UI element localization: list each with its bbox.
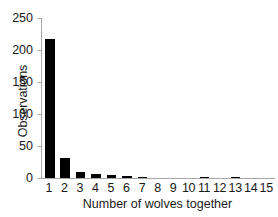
bar-cell [73, 18, 88, 178]
x-axis-tick-labels: 123456789101112131415 [41, 180, 274, 196]
plot-area [41, 18, 274, 178]
bar [45, 39, 55, 178]
x-tick-label: 10 [181, 180, 197, 196]
y-tick-mark [38, 114, 42, 115]
y-tick-label: 0 [26, 172, 33, 185]
bar [60, 158, 70, 178]
bar-cell [135, 18, 150, 178]
y-tick-label: 250 [12, 12, 33, 25]
x-tick-label: 8 [150, 180, 166, 196]
bar-cell [212, 18, 227, 178]
bar-cell [181, 18, 196, 178]
x-tick-label: 5 [103, 180, 119, 196]
x-tick-label: 9 [165, 180, 181, 196]
x-axis-title: Number of wolves together [41, 197, 274, 211]
x-tick-label: 15 [258, 180, 274, 196]
chart-figure: Observations 050100150200250 12345678910… [0, 0, 278, 217]
y-tick-label: 200 [12, 44, 33, 57]
x-tick-label: 11 [196, 180, 212, 196]
bar-cell [104, 18, 119, 178]
y-tick-mark [38, 50, 42, 51]
x-tick-label: 7 [134, 180, 150, 196]
x-tick-label: 14 [243, 180, 259, 196]
x-tick-label: 6 [119, 180, 135, 196]
x-tick-label: 3 [72, 180, 88, 196]
y-tick-label: 50 [19, 140, 33, 153]
x-tick-label: 4 [88, 180, 104, 196]
y-tick-mark [38, 146, 42, 147]
bar-cell [42, 18, 57, 178]
x-tick-label: 1 [41, 180, 57, 196]
bar-cell [243, 18, 258, 178]
y-tick-mark [38, 82, 42, 83]
y-axis-tick-labels: 050100150200250 [0, 0, 36, 217]
bar-cell [259, 18, 274, 178]
x-tick-label: 2 [57, 180, 73, 196]
y-tick-label: 100 [12, 108, 33, 121]
bar-cell [197, 18, 212, 178]
y-tick-label: 150 [12, 76, 33, 89]
y-tick-mark [38, 18, 42, 19]
bar-series [42, 18, 274, 178]
bar-cell [150, 18, 165, 178]
bar-cell [57, 18, 72, 178]
x-tick-label: 12 [212, 180, 228, 196]
x-axis-line [41, 178, 275, 179]
bar-cell [119, 18, 134, 178]
bar-cell [166, 18, 181, 178]
bar-cell [88, 18, 103, 178]
x-tick-label: 13 [227, 180, 243, 196]
bar-cell [228, 18, 243, 178]
